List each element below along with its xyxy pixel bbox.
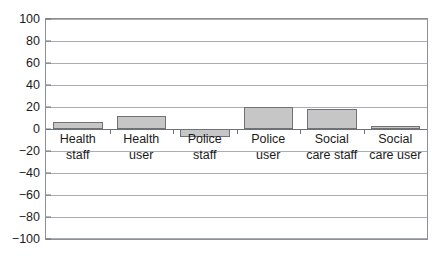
x-axis-category-label: Socialcare staff	[300, 131, 364, 163]
category-label-line: Social	[300, 131, 364, 147]
x-axis-category-label: Policestaff	[173, 131, 237, 163]
category-label-line: staff	[173, 147, 237, 163]
bar-health-user[interactable]	[117, 116, 167, 129]
y-axis-tick-label: −20	[0, 144, 40, 158]
category-label-line: staff	[46, 147, 110, 163]
category-label-line: Health	[46, 131, 110, 147]
y-axis-tick-label: −80	[0, 210, 40, 224]
bar-slot	[300, 19, 364, 239]
y-axis-tick-label: 60	[0, 56, 40, 70]
y-axis-tick-label: −40	[0, 166, 40, 180]
category-label-line: Police	[173, 131, 237, 147]
bar-health-staff[interactable]	[53, 122, 103, 129]
bar-social-care-staff[interactable]	[307, 109, 357, 129]
y-axis-tick-label: −60	[0, 188, 40, 202]
category-label-line: care user	[364, 147, 428, 163]
category-label-line: user	[237, 147, 301, 163]
bar-slot	[46, 19, 110, 239]
category-label-line: care staff	[300, 147, 364, 163]
bar-slot	[364, 19, 428, 239]
category-label-line: Social	[364, 131, 428, 147]
category-label-line: Health	[110, 131, 174, 147]
x-axis-category-labels: HealthstaffHealthuserPolicestaffPoliceus…	[46, 131, 427, 171]
y-axis-tick-label: 80	[0, 34, 40, 48]
bar-chart: 100806040200−20−40−60−80−100 Healthstaff…	[0, 0, 440, 259]
x-axis-category-label: Healthuser	[110, 131, 174, 163]
y-axis-tick-label: 0	[0, 122, 40, 136]
bars-layer	[46, 19, 427, 239]
bar-social-care-user[interactable]	[371, 126, 421, 129]
bar-police-user[interactable]	[244, 107, 294, 129]
bar-slot	[173, 19, 237, 239]
x-axis-category-label: Socialcare user	[364, 131, 428, 163]
category-label-line: user	[110, 147, 174, 163]
bar-slot	[237, 19, 301, 239]
category-label-line: Police	[237, 131, 301, 147]
y-axis-tick-label: 100	[0, 12, 40, 26]
x-axis-category-label: Healthstaff	[46, 131, 110, 163]
y-axis-tick-label: −100	[0, 232, 40, 246]
y-axis-tick-label: 40	[0, 78, 40, 92]
bar-slot	[110, 19, 174, 239]
y-axis-tick-label: 20	[0, 100, 40, 114]
x-axis-category-label: Policeuser	[237, 131, 301, 163]
